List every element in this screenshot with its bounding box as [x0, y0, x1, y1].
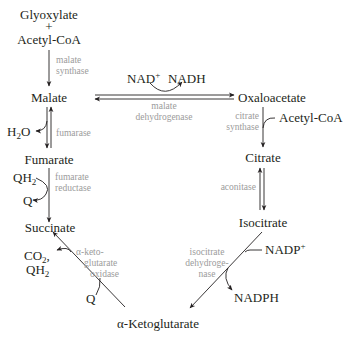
enzyme-aconitase: aconitase — [221, 182, 256, 193]
enzyme-malate-synthase: malate synthase — [56, 55, 89, 77]
h2o-label: H2O — [7, 125, 30, 138]
acetyl-coa-top-label: Acetyl-CoA — [17, 33, 81, 46]
succinate-label: Succinate — [25, 221, 76, 234]
enzyme-citrate-synthase: citrate synthase — [226, 111, 259, 133]
nadp-join-curve — [245, 250, 262, 252]
q-bottom-label: Q — [86, 292, 95, 305]
enzyme-fumarase: fumarase — [56, 128, 91, 139]
enzyme-akg-oxidase: α-keto- glutarate oxidase — [76, 247, 119, 280]
qh2-bottom-label: QH2 — [26, 263, 49, 276]
nadh-label: NADH — [168, 72, 206, 85]
citrate-label: Citrate — [245, 151, 280, 164]
acetyl-coa-right-label: Acetyl-CoA — [279, 111, 343, 124]
isocitrate-label: Isocitrate — [239, 216, 287, 229]
malate-label: Malate — [31, 91, 67, 104]
nad-plus-label: NAD+ — [127, 72, 160, 85]
enzyme-fumarate-reductase: fumarate reductase — [55, 172, 91, 194]
nadph-label: NADPH — [234, 291, 279, 304]
qh2-top-label: QH2 — [13, 171, 36, 184]
acetyl-coa-join-curve — [263, 118, 275, 128]
q-top-label: Q — [23, 194, 32, 207]
fumarate-label: Fumarate — [24, 153, 73, 166]
h2o-release-curve — [36, 121, 47, 131]
alpha-ketoglutarate-label: α-Ketoglutarate — [117, 317, 199, 330]
oxaloacetate-label: Oxaloacetate — [238, 91, 306, 104]
enzyme-isocitrate-dehydrogenase: isocitrate dehydroge- nase — [185, 247, 228, 280]
nadp-plus-label: NADP+ — [265, 243, 305, 256]
co2-label: CO2, — [24, 249, 50, 262]
enzyme-malate-dehydrogenase: malate dehydrogenase — [136, 101, 193, 123]
